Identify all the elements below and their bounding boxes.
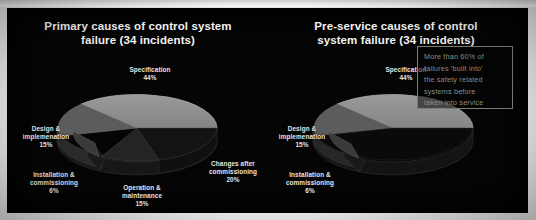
chart-panel-primary-causes: Primary causes of control system failure… — [7, 8, 267, 213]
slice-pct-design-implementation: 15% — [11, 141, 81, 149]
slice-pct-operation-maintenance: 15% — [105, 200, 179, 208]
slice-label-changes-after-commissioning: Changes after commissioning 20% — [197, 160, 269, 185]
annotation-box: More than 60% of failures 'built into' t… — [417, 46, 513, 109]
slice-pct-design-implementation: 15% — [267, 141, 337, 149]
slice-label-design-implementation: Design & implemenation 15% — [267, 125, 337, 150]
chart-panel-pre-service-causes: Pre-service causes of control system fai… — [265, 8, 525, 213]
slice-pct-installation-commissioning: 6% — [271, 187, 349, 195]
slice-label-installation-commissioning: Installation & commissioning 6% — [271, 171, 349, 196]
slice-pct-installation-commissioning: 6% — [15, 187, 93, 195]
slice-label-operation-maintenance: Operation & maintenance 15% — [105, 184, 179, 209]
slide-canvas: Primary causes of control system failure… — [7, 8, 528, 213]
annotation-text: More than 60% of failures 'built into' t… — [424, 51, 507, 109]
slice-label-specification: Specification 44% — [119, 66, 181, 82]
pie-chart-primary-causes: Specification 44% Design & implemenation… — [7, 8, 267, 213]
slice-label-design-implementation: Design & implemenation 15% — [11, 125, 81, 150]
slice-pct-changes-after-commissioning: 20% — [197, 176, 269, 184]
slice-label-installation-commissioning: Installation & commissioning 6% — [15, 171, 93, 196]
pie-chart-pre-service-causes: Specification 44% Design & implemenation… — [265, 8, 525, 213]
slice-pct-specification: 44% — [119, 74, 181, 82]
slide-frame: Primary causes of control system failure… — [0, 0, 536, 220]
